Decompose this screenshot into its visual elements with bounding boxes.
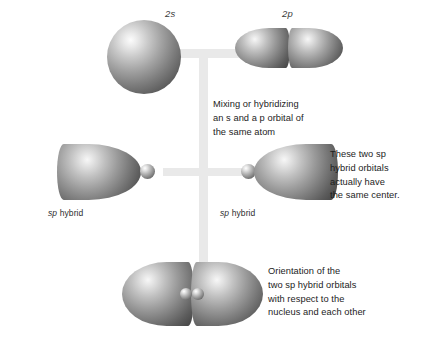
orbital-2p-lobe-left	[235, 28, 290, 68]
label-2p: 2p	[282, 8, 293, 19]
note-same-center: These two sp hybrid orbitals actually ha…	[330, 148, 420, 203]
nucleus-sphere-bottom-right	[192, 288, 204, 300]
note-mixing-hybridizing: Mixing or hybridizing an s and a p orbit…	[213, 98, 363, 139]
orbital-sp-hybrid-left	[57, 144, 141, 200]
orbital-sp-hybrid-right	[254, 144, 338, 200]
nucleus-sphere-bottom-left	[180, 288, 192, 300]
nucleus-sphere-left	[140, 164, 155, 179]
note-orientation: Orientation of the two sp hybrid orbital…	[268, 265, 418, 320]
label-2s: 2s	[165, 8, 175, 19]
label-sp-hybrid-right: sp hybrid	[220, 208, 255, 218]
label-sp-hybrid-left: sp hybrid	[48, 208, 83, 218]
orbital-2s-sphere	[107, 20, 181, 94]
connector-vertical-upper	[199, 49, 208, 169]
orbital-hybridization-diagram: 2s 2p Mixing or hybridizing an s and a p…	[0, 0, 422, 338]
orbital-2p-lobe-right	[288, 28, 343, 68]
